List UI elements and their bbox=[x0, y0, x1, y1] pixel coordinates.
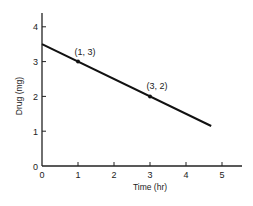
point-annotation: (1, 3) bbox=[74, 47, 95, 57]
x-tick-label: 3 bbox=[147, 170, 152, 180]
x-tick-label: 1 bbox=[75, 170, 80, 180]
y-tick-label: 3 bbox=[33, 57, 38, 67]
chart: 01234501234(1, 3)(3, 2) Time (hr) Drug (… bbox=[0, 0, 253, 206]
y-tick-label: 1 bbox=[33, 127, 38, 137]
data-point bbox=[76, 60, 80, 64]
x-tick-label: 2 bbox=[111, 170, 116, 180]
data-line bbox=[42, 44, 211, 126]
y-tick-label: 0 bbox=[33, 162, 38, 172]
x-tick-label: 4 bbox=[183, 170, 188, 180]
x-tick-label: 0 bbox=[39, 170, 44, 180]
y-tick-label: 4 bbox=[33, 22, 38, 32]
x-axis-title: Time (hr) bbox=[133, 182, 167, 192]
plot-area: 01234501234(1, 3)(3, 2) bbox=[33, 13, 242, 180]
data-point bbox=[148, 94, 152, 98]
y-tick-label: 2 bbox=[33, 92, 38, 102]
x-tick-label: 5 bbox=[219, 170, 224, 180]
point-annotation: (3, 2) bbox=[146, 81, 167, 91]
y-axis-title: Drug (mg) bbox=[14, 77, 24, 115]
